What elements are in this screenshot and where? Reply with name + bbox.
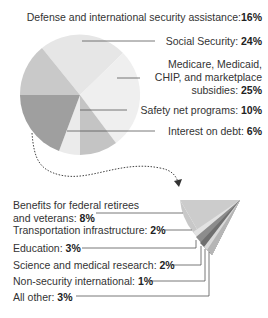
label-medicare: Medicare, Medicaid, CHIP, and marketplac… (155, 58, 262, 97)
label-nonsecurity: Non-security international: 1% (13, 275, 153, 288)
label-defense: Defense and international security assis… (27, 11, 262, 24)
label-safety-net: Safety net programs: 10% (141, 104, 262, 117)
breakout-pie (180, 200, 240, 255)
label-interest: Interest on debt: 6% (168, 125, 262, 138)
label-social-security: Social Security: 24% (166, 35, 262, 48)
main-pie (20, 35, 140, 155)
label-all-other: All other: 3% (13, 291, 73, 304)
label-science: Science and medical research: 2% (13, 259, 175, 272)
label-education: Education: 3% (13, 242, 81, 255)
label-federal: Benefits for federal retirees and vetera… (13, 199, 139, 225)
label-transport: Transportation infrastructure: 2% (13, 224, 166, 237)
arrow-head-icon (174, 179, 182, 187)
